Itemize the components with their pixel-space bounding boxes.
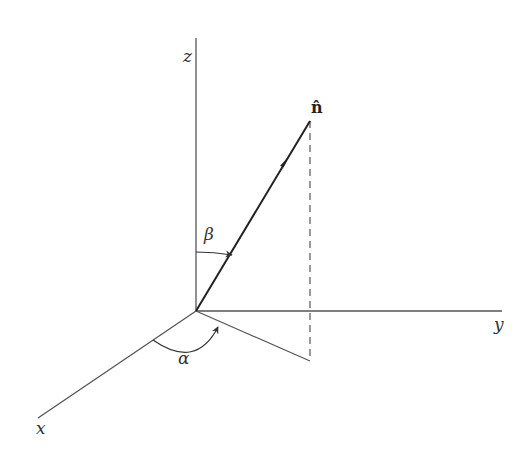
coordinate-diagram: z y x n̂ β α — [0, 0, 532, 461]
x-axis — [38, 311, 196, 418]
n-hat-label: n̂ — [311, 98, 323, 117]
n-hat-vector — [196, 121, 310, 311]
y-axis-label: y — [493, 314, 504, 334]
beta-label: β — [203, 224, 214, 244]
alpha-label: α — [178, 348, 190, 368]
beta-arc — [196, 252, 232, 255]
z-axis-label: z — [182, 46, 193, 66]
x-axis-label: x — [36, 418, 46, 438]
